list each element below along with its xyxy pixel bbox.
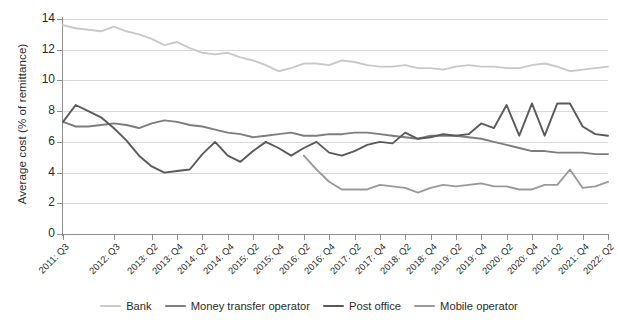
legend-item-bank[interactable]: Bank xyxy=(100,300,152,312)
legend-label: Money transfer operator xyxy=(191,300,310,312)
legend-swatch-icon xyxy=(323,305,344,307)
legend-swatch-icon xyxy=(165,305,186,307)
legend-label: Mobile operator xyxy=(440,300,518,312)
legend-swatch-icon xyxy=(414,305,435,307)
legend-item-mobile-operator[interactable]: Mobile operator xyxy=(414,300,518,312)
series-line-money-transfer-operator xyxy=(63,120,608,154)
legend-label: Post office xyxy=(349,300,401,312)
series-line-post-office xyxy=(63,103,608,172)
legend-swatch-icon xyxy=(100,305,121,307)
series-line-bank xyxy=(63,25,608,71)
series-line-mobile-operator xyxy=(304,156,608,193)
legend-label: Bank xyxy=(126,300,152,312)
legend-item-post-office[interactable]: Post office xyxy=(323,300,401,312)
legend-item-money-transfer-operator[interactable]: Money transfer operator xyxy=(165,300,310,312)
chart-legend: BankMoney transfer operatorPost officeMo… xyxy=(0,300,618,312)
series-lines xyxy=(0,0,618,324)
chart-container: Average cost (% of remittance) 024681012… xyxy=(0,0,618,324)
